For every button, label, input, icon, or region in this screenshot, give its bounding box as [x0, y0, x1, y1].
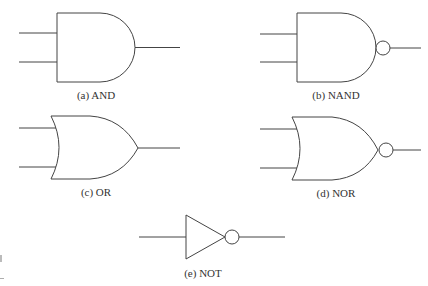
not-inversion-bubble	[225, 230, 239, 244]
nand-gate	[260, 13, 421, 82]
not-gate	[139, 215, 285, 259]
nor-inversion-bubble	[379, 143, 393, 157]
caption-nand: (b) NAND	[312, 89, 359, 101]
caption-or: (c) OR	[81, 186, 111, 198]
caption-and: (a) AND	[77, 89, 115, 101]
edge-artifact-mark	[0, 255, 2, 262]
or-gate	[19, 116, 180, 179]
nand-gate-body	[297, 13, 376, 82]
nor-gate-body	[292, 117, 378, 180]
caption-nor: (d) NOR	[317, 187, 356, 199]
nor-gate	[260, 117, 421, 180]
or-gate-body	[51, 116, 138, 179]
and-gate	[19, 13, 180, 82]
not-gate-triangle	[186, 215, 225, 259]
edge-artifact-line	[0, 278, 4, 279]
nand-inversion-bubble	[376, 41, 390, 55]
and-gate-body	[57, 13, 135, 82]
caption-not: (e) NOT	[184, 267, 222, 279]
logic-gates-diagram	[0, 0, 428, 286]
